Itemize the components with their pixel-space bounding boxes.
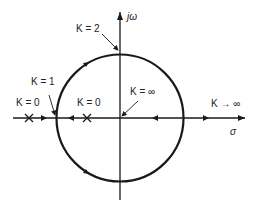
label-k0-left: K = 0 [16,98,40,108]
root-locus-diagram: K = 2 K = 1 K = 0 K = 0 K = ∞ K → ∞ jω σ [0,0,253,207]
real-arrow-between-poles-icon [68,115,74,121]
label-kinf-center: K = ∞ [130,87,155,97]
label-k0-right: K = 0 [77,98,101,108]
label-k2: K = 2 [76,24,100,34]
real-arrow-left-branch-icon [41,115,47,121]
leader-k1 [49,95,55,115]
label-k1: K = 1 [31,77,55,87]
real-axis-arrow-icon [238,115,245,121]
label-kinf-right: K → ∞ [211,99,240,109]
real-axis-label: σ [230,127,236,137]
real-arrow-outer-right-icon [203,115,209,121]
imaginary-axis-arrow-icon [117,12,123,20]
leader-kinf [122,101,138,116]
imaginary-axis-label: jω [127,12,137,22]
real-arrow-inner-right-icon [152,115,158,121]
leader-k2 [102,34,118,50]
